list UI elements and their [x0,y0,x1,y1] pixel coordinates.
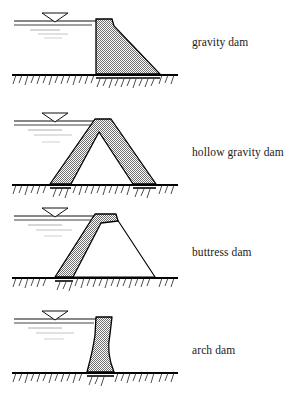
dam-label-buttress: buttress dam [192,246,252,258]
dam-label-gravity: gravity dam [192,36,248,48]
dam-types-diagram [0,0,295,405]
dam-label-arch: arch dam [192,344,235,356]
dam-label-hollow-gravity: hollow gravity dam [192,146,284,158]
